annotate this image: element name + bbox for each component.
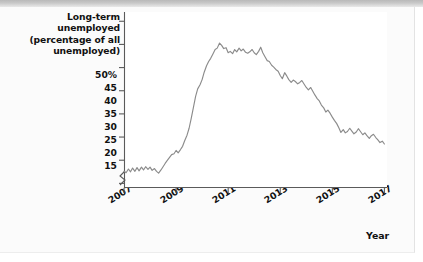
chart-plot (0, 0, 423, 262)
plot-background (124, 12, 387, 188)
x-tick-marks (124, 188, 384, 193)
y-tick-marks (119, 21, 124, 183)
figure-container: Long-term unemployed (percentage of all … (0, 0, 423, 262)
